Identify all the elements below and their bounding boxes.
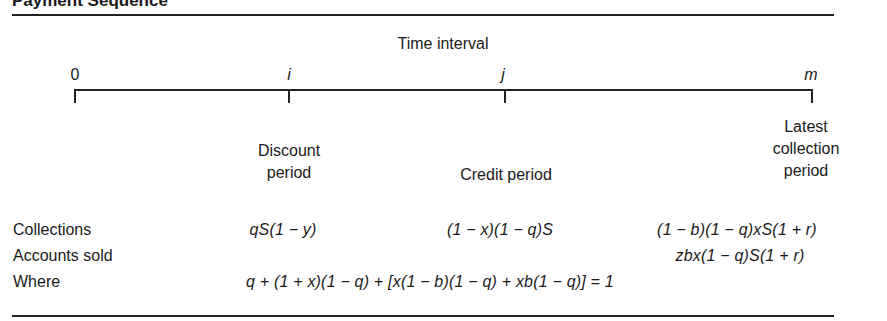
collections-latest-formula: (1 − b)(1 − q)xS(1 + r) — [657, 221, 817, 239]
row-label-collections: Collections — [13, 221, 91, 239]
discount-period-label: Discount period — [258, 140, 320, 184]
time-interval-header: Time interval — [398, 35, 489, 53]
discount-period-line2: period — [258, 162, 320, 184]
timeline-label-m: m — [804, 66, 817, 84]
collections-discount-formula: qS(1 − y) — [249, 221, 316, 239]
timeline-tick-i — [288, 89, 290, 103]
accounts-sold-latest-formula: zbx(1 − q)S(1 + r) — [676, 247, 805, 265]
timeline-label-j: j — [501, 66, 505, 84]
timeline-axis — [74, 89, 812, 91]
collections-credit-formula: (1 − x)(1 − q)S — [447, 221, 553, 239]
where-equation: q + (1 + x)(1 − q) + [x(1 − b)(1 − q) + … — [246, 273, 614, 291]
timeline-label-i: i — [287, 66, 291, 84]
timeline-tick-0 — [74, 89, 76, 103]
credit-period-label: Credit period — [460, 166, 552, 184]
top-rule — [12, 14, 834, 16]
diagram-title: Payment Sequence — [12, 0, 168, 11]
latest-period-line3: period — [773, 160, 840, 182]
latest-collection-period-label: Latest collection period — [773, 116, 840, 182]
timeline-label-0: 0 — [71, 66, 80, 84]
latest-period-line2: collection — [773, 138, 840, 160]
row-label-where: Where — [13, 273, 60, 291]
discount-period-line1: Discount — [258, 140, 320, 162]
row-label-accounts-sold: Accounts sold — [13, 247, 113, 265]
timeline-tick-j — [504, 89, 506, 103]
latest-period-line1: Latest — [773, 116, 840, 138]
timeline-tick-m — [811, 89, 813, 103]
bottom-rule — [12, 315, 834, 317]
